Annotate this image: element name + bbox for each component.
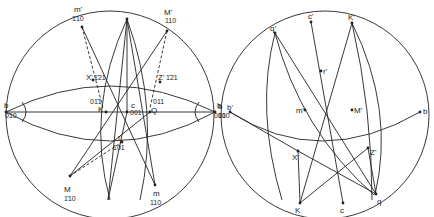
index-Q: 011: [153, 98, 164, 105]
index-b-prime: 010: [218, 112, 230, 119]
label-r: r: [118, 133, 121, 142]
label-X-prime: X': [86, 73, 93, 82]
label-b-left: b: [4, 101, 9, 110]
left-line-c-M: [70, 112, 150, 176]
label-m-prime: m': [74, 5, 83, 14]
left-great-circle-lower: [6, 112, 215, 141]
label-X-prime-right: X': [292, 153, 299, 162]
left-dashed-mprime-K: [82, 27, 103, 108]
label-M-prime-right: M': [354, 106, 363, 115]
left-projection: [6, 11, 215, 217]
left-line-top-bottom-1: [108, 19, 127, 200]
right-line-cprime-c: [311, 22, 343, 203]
label-q-prime: q': [270, 24, 276, 33]
label-m: m: [153, 189, 160, 198]
left-labels: m' 1̄10 M' 110 X' 1̄21 Z' 1̄21 b 010 b 0…: [4, 5, 226, 206]
index-Z-prime: 1̄21: [166, 74, 178, 81]
index-M-prime: 110: [165, 17, 176, 24]
label-Z-prime: Z': [158, 73, 165, 82]
label-K-prime: K': [348, 13, 355, 22]
label-c-right: c: [340, 206, 344, 215]
left-line-c-bottom: [108, 112, 127, 200]
label-b-prime: b': [227, 103, 233, 112]
label-r-prime: r': [323, 67, 328, 76]
right-arc-qprime-1: [266, 33, 282, 200]
label-q-right: q: [377, 197, 381, 206]
index-K: 01̄1: [90, 98, 102, 105]
right-line-b-Xprime: [230, 112, 298, 151]
index-m-prime: 1̄10: [72, 15, 84, 22]
left-primitive-circle: [6, 11, 214, 217]
label-M-prime: M': [164, 8, 173, 17]
index-X-prime: 1̄21: [94, 74, 106, 81]
label-c-prime: c': [308, 12, 314, 21]
label-b-right-proj: b: [218, 102, 223, 111]
right-line-K-Zprime: [300, 148, 368, 203]
label-K-right: K: [295, 206, 301, 215]
label-Q: Q: [151, 106, 157, 115]
index-b-left: 010: [5, 112, 17, 119]
index-M: 1̄10: [64, 195, 76, 202]
label-Z-prime-right: Z': [370, 148, 377, 157]
index-r: 101: [113, 144, 125, 151]
right-projection: [221, 11, 429, 217]
left-great-circle-upper: [6, 86, 215, 112]
index-m: 110: [150, 199, 161, 206]
label-K: K: [98, 105, 104, 114]
label-m-prime-right: m': [296, 106, 305, 115]
index-c: 001: [130, 109, 142, 116]
label-M: M: [64, 185, 71, 194]
right-primitive-circle: [221, 11, 429, 217]
label-b-far-right: b: [423, 107, 428, 116]
stereographic-projection-figure: m' 1̄10 M' 110 X' 1̄21 Z' 1̄21 b 010 b 0…: [0, 0, 434, 217]
left-dashed-Mprime-Q: [150, 31, 167, 108]
